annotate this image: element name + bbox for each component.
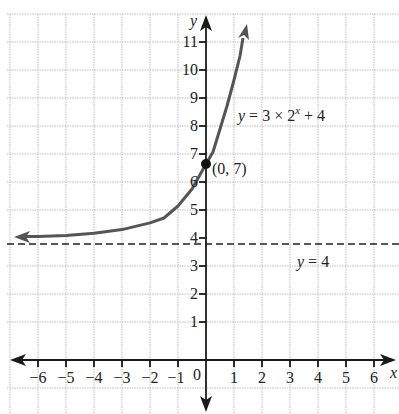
curve-equation-label: y = 3 × 2x + 4 (236, 104, 325, 125)
grid (7, 14, 399, 414)
asymptote-equation-label: y = 4 (295, 253, 329, 271)
point-0-7 (201, 159, 211, 169)
y-axis (199, 22, 206, 405)
y-tick-labels: 1 2 3 4 5 6 7 8 9 10 11 (182, 33, 198, 330)
svg-text:10: 10 (182, 61, 198, 78)
svg-text:−6: −6 (29, 369, 46, 386)
exponential-curve (24, 38, 243, 237)
svg-text:1: 1 (230, 369, 238, 386)
exponential-graph: −6 −5 −4 −3 −2 −1 1 2 3 4 5 6 0 1 2 3 4 … (0, 0, 399, 414)
svg-text:7: 7 (190, 145, 198, 162)
x-axis (14, 360, 390, 367)
svg-text:−5: −5 (57, 369, 74, 386)
curve-up-arrow-icon (238, 24, 249, 40)
point-label: (0, 7) (212, 160, 247, 178)
x-tick-labels: −6 −5 −4 −3 −2 −1 1 2 3 4 5 6 0 (29, 366, 378, 386)
svg-text:4: 4 (190, 229, 198, 246)
svg-text:5: 5 (342, 369, 350, 386)
y-axis-label: y (188, 12, 198, 30)
svg-text:−2: −2 (141, 369, 158, 386)
svg-text:8: 8 (190, 117, 198, 134)
origin-label: 0 (193, 366, 201, 383)
svg-text:4: 4 (314, 369, 322, 386)
svg-text:3: 3 (190, 257, 198, 274)
x-axis-label: x (389, 364, 397, 381)
svg-text:1: 1 (190, 313, 198, 330)
svg-text:−4: −4 (85, 369, 102, 386)
svg-text:−1: −1 (167, 369, 184, 386)
svg-text:2: 2 (258, 369, 266, 386)
svg-text:3: 3 (286, 369, 294, 386)
svg-text:9: 9 (190, 89, 198, 106)
svg-text:2: 2 (190, 285, 198, 302)
svg-text:11: 11 (183, 33, 198, 50)
svg-text:6: 6 (370, 369, 378, 386)
svg-text:−3: −3 (113, 369, 130, 386)
svg-text:5: 5 (190, 201, 198, 218)
svg-text:6: 6 (190, 173, 198, 190)
